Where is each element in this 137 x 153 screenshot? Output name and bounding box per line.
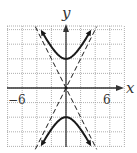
x-axis-label: x — [126, 79, 135, 97]
x-tick-label-pos6: 6 — [103, 93, 111, 107]
x-tick-label-neg6: −6 — [8, 93, 26, 107]
axes — [7, 24, 124, 147]
y-axis-label: y — [61, 4, 71, 22]
y-axis-arrow-icon — [63, 24, 69, 32]
x-axis-arrow-icon — [116, 85, 124, 91]
hyperbola-graph: y x −6 6 — [0, 0, 137, 153]
center-point — [64, 86, 67, 89]
